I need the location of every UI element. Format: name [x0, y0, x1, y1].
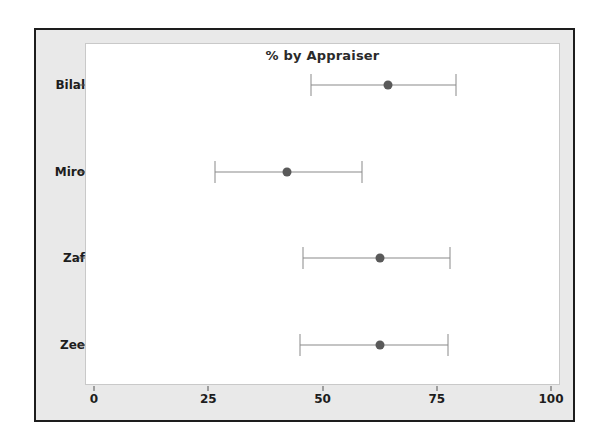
- appraiser-percent-chart: % by Appraiser BilalMiroZafZee 025507510…: [0, 0, 603, 445]
- x-tick-label-0: 0: [90, 392, 98, 406]
- x-tick-label-75: 75: [428, 392, 445, 406]
- interval-cap-lower-zee: [300, 334, 301, 356]
- x-tick-mark-50: [322, 386, 323, 391]
- category-tick-miro: [79, 172, 85, 173]
- x-tick-mark-0: [94, 386, 95, 391]
- x-tick-mark-25: [208, 386, 209, 391]
- x-tick-label-100: 100: [538, 392, 563, 406]
- category-axis: BilalMiroZafZee: [36, 0, 85, 445]
- x-tick-label-25: 25: [200, 392, 217, 406]
- interval-cap-upper-zaf: [450, 247, 451, 269]
- interval-cap-upper-zee: [448, 334, 449, 356]
- interval-cap-lower-bilal: [311, 74, 312, 96]
- data-point-bilal[interactable]: [383, 81, 392, 90]
- x-tick-mark-100: [551, 386, 552, 391]
- interval-cap-lower-miro: [215, 161, 216, 183]
- chart-title: % by Appraiser: [85, 48, 560, 63]
- interval-cap-upper-bilal: [455, 74, 456, 96]
- data-point-miro[interactable]: [282, 168, 291, 177]
- category-tick-bilal: [79, 85, 85, 86]
- interval-cap-lower-zaf: [302, 247, 303, 269]
- x-tick-label-50: 50: [314, 392, 331, 406]
- interval-cap-upper-miro: [361, 161, 362, 183]
- x-tick-mark-75: [436, 386, 437, 391]
- interval-line-zee: [300, 345, 448, 346]
- category-tick-zaf: [79, 258, 85, 259]
- plot-area: [85, 43, 560, 385]
- category-tick-zee: [79, 345, 85, 346]
- data-point-zaf[interactable]: [376, 254, 385, 263]
- data-point-zee[interactable]: [376, 341, 385, 350]
